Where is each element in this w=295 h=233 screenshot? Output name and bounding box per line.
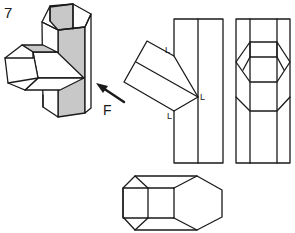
arrow-shaft — [103, 88, 124, 102]
side-lower-chevron — [236, 97, 290, 111]
top-left-square — [123, 188, 148, 218]
top-outline — [123, 176, 222, 230]
top-diag — [174, 176, 197, 188]
step-number: 7 — [4, 4, 12, 21]
edge-label-l-top: L — [165, 45, 170, 55]
side-hex-inner — [243, 57, 250, 70]
diagram-canvas: 7 F L L L — [0, 0, 295, 233]
tube-side-face — [85, 14, 91, 113]
edge-label-l-right: L — [200, 92, 205, 102]
side-hex-inner — [250, 42, 277, 57]
side-view — [236, 19, 290, 163]
top-diag — [135, 176, 148, 188]
force-arrow: F — [96, 83, 124, 118]
top-diag — [135, 218, 148, 230]
top-diag — [174, 218, 197, 230]
top-view — [123, 176, 222, 230]
front-view: L L L — [124, 19, 223, 163]
side-hex-inner — [277, 57, 284, 70]
tube-interior-shade — [50, 4, 73, 30]
isometric-t-junction — [5, 4, 91, 117]
side-hex-opening — [236, 42, 290, 82]
side-outline — [236, 19, 290, 163]
branch-crease — [136, 62, 198, 97]
edge-label-l-bottom: L — [167, 111, 172, 121]
force-label: F — [103, 102, 112, 118]
